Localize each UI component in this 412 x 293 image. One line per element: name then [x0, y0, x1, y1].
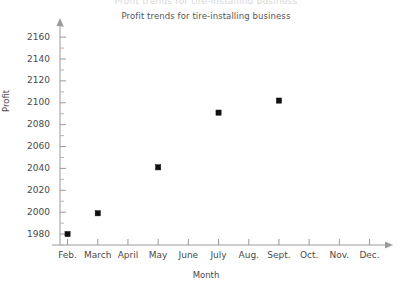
data-point-marker	[216, 110, 221, 115]
x-axis-ticks	[68, 239, 370, 245]
x-tick-label: Dec.	[359, 250, 379, 260]
x-tick-label: March	[84, 250, 111, 260]
data-point-marker	[276, 98, 281, 103]
y-tick-label: 2140	[27, 54, 50, 64]
y-tick-label-wrap: 2080	[0, 119, 50, 130]
y-tick-label-wrap: 1980	[0, 229, 50, 240]
data-point-marker	[95, 211, 100, 216]
x-tick-label: Nov.	[329, 250, 349, 260]
y-tick-label: 2100	[27, 97, 50, 107]
data-markers	[65, 98, 282, 237]
y-tick-label: 2000	[27, 207, 50, 217]
x-tick-label: May	[149, 250, 168, 260]
x-tick-label: July	[210, 250, 226, 260]
y-axis-ticks	[60, 26, 66, 245]
y-tick-label: 2120	[27, 75, 50, 85]
y-tick-label-wrap: 2160	[0, 32, 50, 43]
y-tick-label-wrap: 2020	[0, 185, 50, 196]
x-tick-label: April	[118, 250, 139, 260]
y-tick-label-wrap: 2000	[0, 207, 50, 218]
y-tick-label: 1980	[27, 229, 50, 239]
x-tick-label: Feb.	[58, 250, 77, 260]
x-tick-label: Aug.	[239, 250, 259, 260]
data-point-marker	[156, 165, 161, 170]
y-axis-arrow-icon	[57, 18, 64, 26]
scatter-chart: Profit trends for tire-installing busine…	[0, 0, 412, 293]
y-tick-label: 2020	[27, 185, 50, 195]
y-tick-label-wrap: 2140	[0, 54, 50, 65]
x-axis-arrow-icon	[385, 242, 393, 249]
x-tick-label: Oct.	[300, 250, 318, 260]
data-point-marker	[65, 231, 70, 236]
axes	[52, 18, 393, 249]
y-axis-title: Profit	[1, 90, 11, 112]
y-tick-label-wrap: 2060	[0, 141, 50, 152]
x-axis-title: Month	[0, 270, 412, 280]
x-tick-label: June	[179, 250, 199, 260]
y-tick-label: 2040	[27, 163, 50, 173]
y-tick-label: 2080	[27, 119, 50, 129]
y-tick-label: 2060	[27, 141, 50, 151]
y-tick-label-wrap: 2040	[0, 163, 50, 174]
y-tick-label-wrap: 2120	[0, 75, 50, 86]
x-tick-label: Sept.	[267, 250, 290, 260]
y-tick-label: 2160	[27, 32, 50, 42]
